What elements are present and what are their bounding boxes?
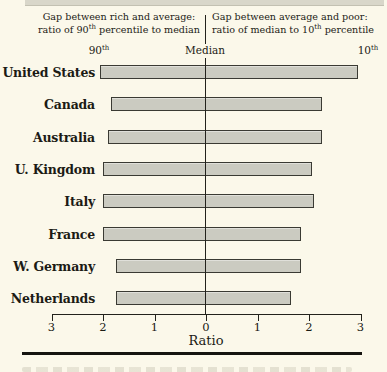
x-axis-tick-label: 1 bbox=[145, 320, 165, 334]
country-label: Australia bbox=[33, 129, 95, 144]
country-label: W. Germany bbox=[13, 258, 95, 273]
country-label: Italy bbox=[64, 194, 95, 209]
ratio-bar bbox=[100, 65, 358, 79]
ratio-bar bbox=[108, 130, 322, 144]
x-axis-tick-label: 0 bbox=[196, 320, 216, 334]
country-label: Canada bbox=[44, 97, 95, 112]
header-left-line1: Gap between rich and average: bbox=[38, 11, 200, 24]
cropped-caption-fragment bbox=[22, 367, 352, 372]
header-right-line2: ratio of median to 10th percentile bbox=[212, 24, 384, 37]
median-axis-line bbox=[205, 58, 206, 315]
header-right-note: Gap between average and poor: ratio of m… bbox=[212, 11, 384, 36]
x-axis-tick-label: 2 bbox=[93, 320, 113, 334]
ratio-bar bbox=[116, 259, 301, 273]
header-right-line1: Gap between average and poor: bbox=[212, 11, 384, 24]
income-gap-chart: Gap between rich and average: ratio of 9… bbox=[0, 0, 387, 372]
x-axis-tick-label: 2 bbox=[299, 320, 319, 334]
ratio-bar bbox=[103, 194, 314, 208]
ratio-bar bbox=[103, 162, 312, 176]
ratio-bar bbox=[103, 227, 301, 241]
x-axis-title: Ratio bbox=[166, 333, 246, 348]
country-label: France bbox=[48, 226, 95, 241]
median-label: Median bbox=[165, 44, 245, 56]
bottom-thick-rule bbox=[22, 352, 362, 355]
ratio-bar bbox=[111, 97, 322, 111]
x-axis-tick-label: 3 bbox=[42, 320, 62, 334]
header-left-line2: ratio of 90th percentile to median bbox=[38, 24, 200, 37]
page-top-edge-band bbox=[25, 0, 384, 6]
country-label: United States bbox=[2, 65, 95, 80]
left-endpoint-label: 90th bbox=[74, 44, 124, 56]
x-axis-tick-label: 3 bbox=[351, 320, 371, 334]
right-endpoint-label: 10th bbox=[348, 44, 387, 56]
country-label: U. Kingdom bbox=[15, 161, 95, 176]
x-axis-tick-label: 1 bbox=[248, 320, 268, 334]
percentile-scale-row: 90th Median 10th bbox=[0, 44, 387, 58]
ratio-bar bbox=[116, 291, 291, 305]
header-left-note: Gap between rich and average: ratio of 9… bbox=[38, 11, 200, 36]
header-divider-line bbox=[205, 15, 206, 44]
country-label: Netherlands bbox=[11, 291, 95, 306]
